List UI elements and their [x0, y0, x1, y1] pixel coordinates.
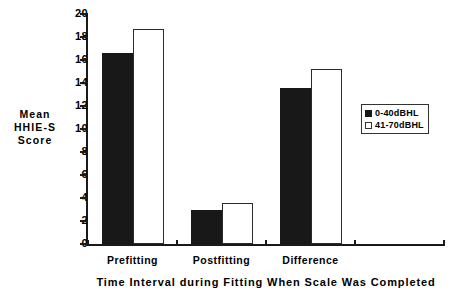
y-axis-title-line-3: Score	[6, 134, 64, 147]
bar-prefitting-0-40dbhl	[102, 53, 133, 244]
y-tick-mark	[80, 13, 88, 15]
y-tick-mark	[80, 197, 88, 199]
y-tick-mark	[80, 174, 88, 176]
bar-prefitting-41-70dbhl	[133, 29, 164, 244]
y-tick-mark	[80, 82, 88, 84]
legend: 0-40dBHL 41-70dBHL	[361, 104, 429, 134]
legend-label-1: 41-70dBHL	[375, 120, 424, 130]
y-tick-mark	[80, 59, 88, 61]
y-tick-mark	[80, 220, 88, 222]
x-axis-title: Time Interval during Fitting When Scale …	[88, 276, 444, 288]
legend-item-0: 0-40dBHL	[365, 107, 424, 119]
bar-chart: Mean HHIE-S Score 20181614121086420 Pref…	[0, 0, 462, 303]
y-axis-title-line-1: Mean	[6, 108, 64, 121]
bar-difference-41-70dbhl	[311, 69, 342, 244]
bar-difference-0-40dbhl	[280, 88, 311, 244]
y-tick-mark	[80, 105, 88, 107]
y-tick-mark	[80, 36, 88, 38]
legend-item-1: 41-70dBHL	[365, 119, 424, 131]
legend-label-0: 0-40dBHL	[375, 108, 419, 118]
legend-swatch-filled-icon	[365, 110, 372, 117]
bar-postfitting-0-40dbhl	[191, 210, 222, 244]
bar-postfitting-41-70dbhl	[222, 203, 253, 244]
y-tick-mark	[80, 151, 88, 153]
legend-swatch-outline-icon	[365, 122, 372, 129]
x-category-label-difference: Difference	[251, 254, 371, 266]
y-tick-mark	[80, 128, 88, 130]
